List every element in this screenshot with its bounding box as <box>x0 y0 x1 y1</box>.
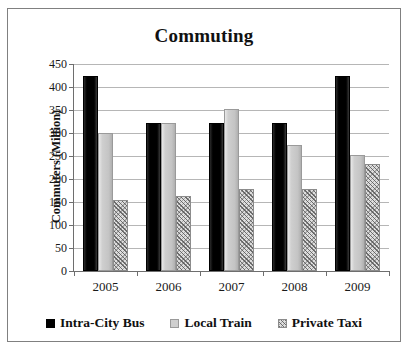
bar-group <box>137 64 200 271</box>
y-tick-label: 200 <box>49 172 67 187</box>
chart-screenshot: Commuting Commuters (Million) 0501001502… <box>0 0 409 351</box>
bar-local-train <box>350 155 365 271</box>
y-tick-label: 150 <box>49 195 67 210</box>
bar-private-taxi <box>239 189 254 271</box>
y-tick-label: 400 <box>49 80 67 95</box>
bar-local-train <box>98 133 113 271</box>
legend-swatch-icon <box>170 319 179 328</box>
bar-group <box>326 64 389 271</box>
bar-group <box>74 64 137 271</box>
x-tick-mark <box>263 271 264 276</box>
x-tick-mark <box>74 271 75 276</box>
chart-legend: Intra-City BusLocal TrainPrivate Taxi <box>8 315 400 331</box>
y-tick-label: 250 <box>49 149 67 164</box>
chart-frame: Commuting Commuters (Million) 0501001502… <box>7 8 401 342</box>
y-axis-title: Commuters (Million) <box>49 67 64 267</box>
bar-intra-city-bus <box>209 123 224 271</box>
y-tick-label: 50 <box>55 241 67 256</box>
x-tick-mark <box>200 271 201 276</box>
x-tick-label: 2006 <box>156 279 182 295</box>
legend-swatch-icon <box>278 319 287 328</box>
bar-intra-city-bus <box>335 76 350 272</box>
bar-private-taxi <box>176 196 191 271</box>
y-tick-label: 350 <box>49 103 67 118</box>
chart-title: Commuting <box>8 25 400 47</box>
legend-label: Private Taxi <box>292 315 362 331</box>
x-tick-mark <box>389 271 390 276</box>
bar-private-taxi <box>302 189 317 271</box>
x-tick-label: 2008 <box>282 279 308 295</box>
legend-label: Intra-City Bus <box>60 315 144 331</box>
legend-item-intra-city-bus[interactable]: Intra-City Bus <box>46 315 144 331</box>
legend-label: Local Train <box>184 315 251 331</box>
legend-item-local-train[interactable]: Local Train <box>170 315 251 331</box>
bar-intra-city-bus <box>146 123 161 271</box>
legend-item-private-taxi[interactable]: Private Taxi <box>278 315 362 331</box>
bar-intra-city-bus <box>83 76 98 272</box>
bar-local-train <box>287 145 302 272</box>
y-tick-label: 300 <box>49 126 67 141</box>
x-tick-mark <box>326 271 327 276</box>
bar-local-train <box>161 123 176 271</box>
y-tick-label: 100 <box>49 218 67 233</box>
bar-local-train <box>224 109 239 271</box>
bar-private-taxi <box>365 164 380 271</box>
x-tick-label: 2005 <box>93 279 119 295</box>
x-tick-label: 2009 <box>345 279 371 295</box>
bar-intra-city-bus <box>272 123 287 271</box>
y-tick-label: 450 <box>49 57 67 72</box>
bar-group <box>200 64 263 271</box>
plot-inner: 050100150200250300350400450 200520062007… <box>73 64 389 272</box>
bar-groups <box>74 64 389 271</box>
bar-private-taxi <box>113 200 128 271</box>
x-tick-mark <box>137 271 138 276</box>
legend-swatch-icon <box>46 319 55 328</box>
plot-area: 050100150200250300350400450 200520062007… <box>73 64 389 272</box>
bar-group <box>263 64 326 271</box>
x-tick-label: 2007 <box>219 279 245 295</box>
y-tick-label: 0 <box>61 264 67 279</box>
